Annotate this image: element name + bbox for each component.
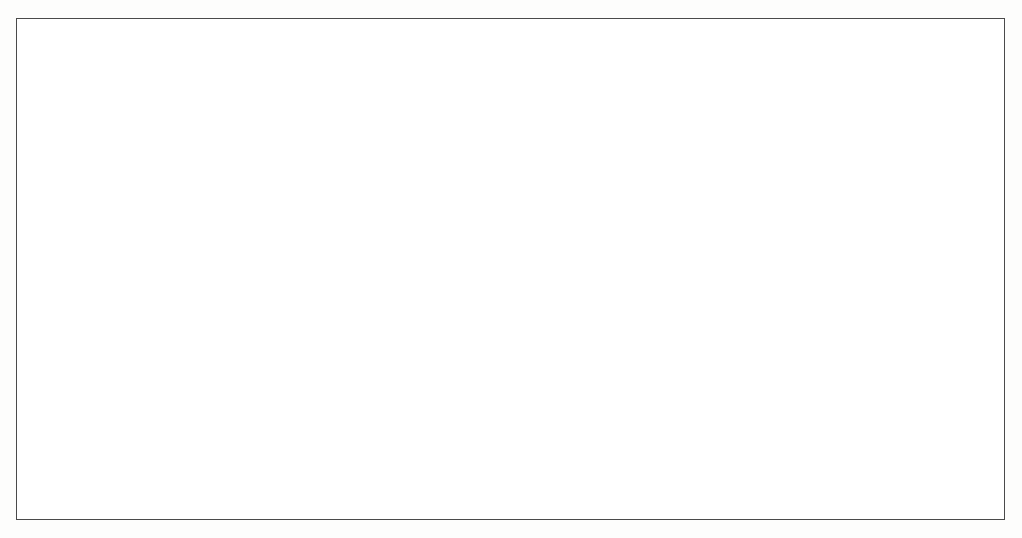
plot-svg	[175, 79, 915, 369]
chart-figure	[0, 0, 1022, 538]
x-axis-tick-labels	[175, 371, 902, 399]
y-axis-tick-labels	[77, 79, 165, 356]
figure-frame	[16, 18, 1005, 520]
plot-area	[175, 79, 902, 356]
